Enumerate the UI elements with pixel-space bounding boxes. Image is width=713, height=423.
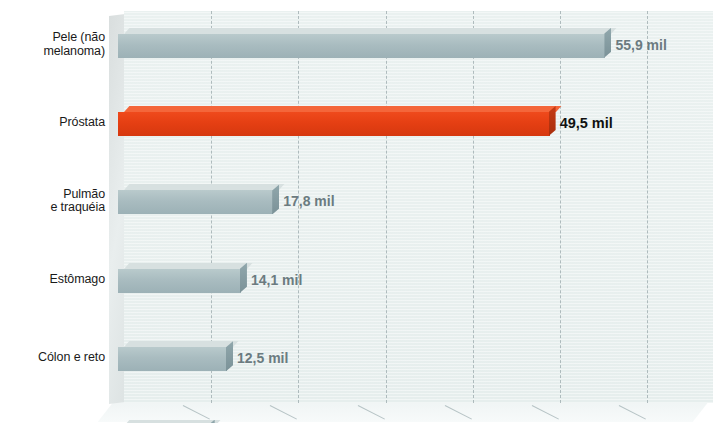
chart-row: Pulmão e traquéia17,8 mil	[0, 89, 713, 128]
chart-rows: Pele (não melanoma)55,9 milPróstata49,5 …	[0, 0, 713, 423]
chart-row: Boca10,4 mil	[0, 207, 713, 246]
bar-top-face	[124, 420, 220, 423]
bar-chart: Pele (não melanoma)55,9 milPróstata49,5 …	[0, 0, 713, 423]
chart-row: Esôfago7,9 mil	[0, 246, 713, 285]
chart-row: Estômago14,1 mil	[0, 129, 713, 168]
chart-row: Leucemias5,2 mil	[0, 285, 713, 324]
chart-row: Outras localizações55,6 mil	[0, 364, 713, 403]
chart-row: Pele (não melanoma)55,9 mil	[0, 11, 713, 50]
chart-row: Próstata49,5 mil	[0, 50, 713, 89]
chart-row: Pele (melanoma)3,0 mil	[0, 325, 713, 364]
chart-row: Cólon e reto12,5 mil	[0, 168, 713, 207]
